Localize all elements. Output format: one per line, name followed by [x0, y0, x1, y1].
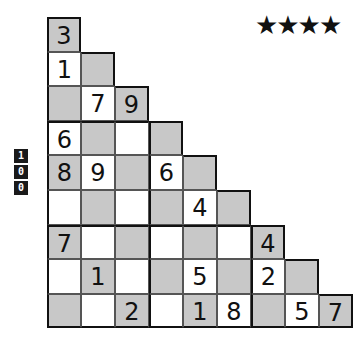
grid-cell[interactable]	[285, 259, 319, 294]
page-number: 1 0 0	[14, 149, 28, 197]
grid-cell[interactable]: 2	[251, 259, 285, 294]
grid-cell[interactable]: 1	[47, 52, 81, 87]
grid-cell[interactable]: 5	[183, 259, 217, 294]
grid-cell[interactable]	[81, 190, 115, 225]
grid-cell[interactable]	[115, 259, 149, 294]
grid-cell[interactable]	[149, 190, 183, 225]
puzzle-grid: 3179689647415221857	[47, 17, 353, 329]
grid-cell[interactable]	[183, 155, 217, 190]
grid-cell[interactable]	[81, 121, 115, 156]
grid-cell[interactable]	[115, 155, 149, 190]
grid-cell[interactable]	[149, 294, 183, 329]
grid-cell[interactable]: 6	[47, 121, 81, 156]
grid-cell[interactable]	[81, 52, 115, 87]
grid-cell[interactable]: 8	[217, 294, 251, 329]
grid-cell[interactable]: 3	[47, 17, 81, 52]
grid-cell[interactable]	[115, 121, 149, 156]
grid-cell[interactable]: 2	[115, 294, 149, 329]
grid-cell[interactable]	[251, 294, 285, 329]
grid-cell[interactable]	[81, 294, 115, 329]
grid-cell[interactable]	[149, 259, 183, 294]
grid-cell[interactable]	[217, 190, 251, 225]
grid-cell[interactable]	[47, 190, 81, 225]
grid-cell[interactable]	[217, 225, 251, 260]
grid-cell[interactable]	[217, 259, 251, 294]
page-digit: 0	[14, 181, 28, 195]
grid-cell[interactable]	[149, 121, 183, 156]
grid-cell[interactable]: 1	[81, 259, 115, 294]
grid-cell[interactable]: 9	[81, 155, 115, 190]
grid-cell[interactable]	[47, 86, 81, 121]
page-digit: 0	[14, 165, 28, 179]
grid-cell[interactable]	[47, 294, 81, 329]
grid-cell[interactable]	[183, 225, 217, 260]
grid-cell[interactable]: 5	[285, 294, 319, 329]
grid-cell[interactable]	[115, 190, 149, 225]
grid-cell[interactable]	[47, 259, 81, 294]
grid-cell[interactable]: 7	[319, 294, 353, 329]
grid-cell[interactable]: 9	[115, 86, 149, 121]
grid-cell[interactable]: 7	[81, 86, 115, 121]
grid-cell[interactable]: 4	[183, 190, 217, 225]
grid-cell[interactable]	[115, 225, 149, 260]
grid-cell[interactable]: 1	[183, 294, 217, 329]
page-digit: 1	[14, 149, 28, 163]
grid-cell[interactable]	[149, 225, 183, 260]
grid-cell[interactable]: 4	[251, 225, 285, 260]
grid-cell[interactable]	[81, 225, 115, 260]
grid-cell[interactable]: 7	[47, 225, 81, 260]
grid-cell[interactable]: 8	[47, 155, 81, 190]
grid-cell[interactable]: 6	[149, 155, 183, 190]
